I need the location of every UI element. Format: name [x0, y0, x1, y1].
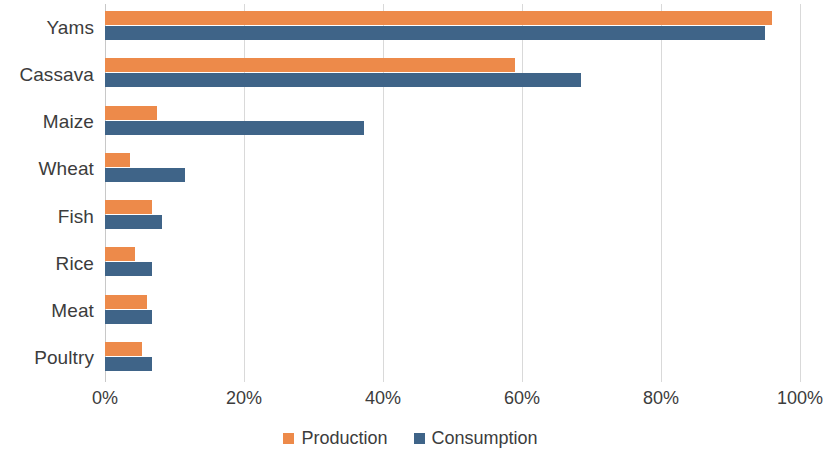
x-axis-tick-label: 60%: [504, 388, 540, 409]
bar-production-maize: [105, 106, 157, 120]
bar-consumption-poultry: [105, 357, 152, 371]
x-axis-tick-label: 20%: [226, 388, 262, 409]
bar-production-rice: [105, 247, 135, 261]
chart-legend: ProductionConsumption: [0, 428, 821, 449]
bar-consumption-yams: [105, 26, 765, 40]
legend-item-consumption[interactable]: Consumption: [414, 428, 538, 449]
category-label: Poultry: [34, 347, 94, 369]
bar-production-cassava: [105, 58, 515, 72]
bar-consumption-fish: [105, 215, 162, 229]
category-row: Fish: [105, 193, 800, 240]
category-label: Yams: [46, 17, 94, 39]
category-label: Rice: [56, 253, 94, 275]
bar-production-yams: [105, 11, 772, 25]
gridline-100%: [800, 4, 801, 382]
bar-consumption-rice: [105, 262, 152, 276]
bar-production-wheat: [105, 153, 130, 167]
category-row: Meat: [105, 288, 800, 335]
legend-swatch-icon: [283, 433, 294, 444]
legend-swatch-icon: [414, 433, 425, 444]
x-axis: 0%20%40%60%80%100%: [105, 388, 800, 414]
category-row: Poultry: [105, 335, 800, 382]
category-label: Meat: [51, 300, 94, 322]
legend-label: Production: [301, 428, 387, 449]
x-axis-tick-label: 80%: [643, 388, 679, 409]
x-axis-tick-label: 40%: [365, 388, 401, 409]
bar-consumption-wheat: [105, 168, 185, 182]
category-label: Maize: [43, 111, 94, 133]
bar-production-fish: [105, 200, 152, 214]
category-label: Cassava: [19, 64, 94, 86]
bar-consumption-maize: [105, 121, 364, 135]
category-label: Wheat: [39, 158, 94, 180]
category-row: Rice: [105, 240, 800, 287]
plot-area: YamsCassavaMaizeWheatFishRiceMeatPoultry: [105, 4, 800, 382]
legend-item-production[interactable]: Production: [283, 428, 387, 449]
category-row: Maize: [105, 99, 800, 146]
legend-label: Consumption: [432, 428, 538, 449]
bar-consumption-cassava: [105, 73, 581, 87]
category-label: Fish: [58, 206, 94, 228]
x-axis-tick-label: 100%: [777, 388, 823, 409]
bar-production-poultry: [105, 342, 142, 356]
category-row: Yams: [105, 4, 800, 51]
category-row: Wheat: [105, 146, 800, 193]
category-row: Cassava: [105, 51, 800, 98]
bar-consumption-meat: [105, 310, 152, 324]
x-axis-tick-label: 0%: [92, 388, 118, 409]
bar-production-meat: [105, 295, 147, 309]
